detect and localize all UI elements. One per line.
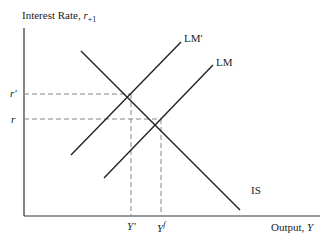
tick-r: r (11, 114, 15, 125)
tick-y-prime: Y' (127, 221, 135, 232)
is-lm-diagram (0, 0, 329, 242)
lm-label: LM (216, 57, 233, 68)
y-axis-text: Interest Rate, (22, 9, 83, 21)
x-axis-var: Y (307, 221, 313, 233)
x-axis-text: Output, (271, 221, 307, 233)
x-axis-label: Output, Y (271, 222, 313, 233)
tick-y-prime-mark: ' (133, 220, 135, 232)
lm-curve (104, 65, 213, 178)
tick-y-f: Yf (157, 221, 165, 234)
y-axis-label: Interest Rate, r+1 (22, 10, 96, 24)
lm-prime-label: LM' (184, 33, 202, 44)
lm-prime-curve (71, 42, 181, 155)
y-axis-sub: +1 (88, 15, 97, 24)
tick-y-f-mark: f (163, 220, 165, 229)
tick-r-prime: r' (10, 88, 17, 99)
is-label: IS (251, 185, 261, 196)
